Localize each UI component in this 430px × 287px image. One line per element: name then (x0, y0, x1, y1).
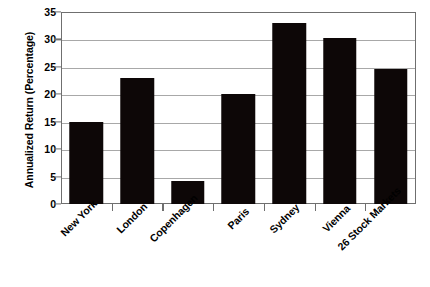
y-tick-label: 0 (16, 198, 56, 210)
bar[interactable] (323, 38, 356, 204)
y-tick-mark (54, 39, 61, 40)
bar-chart: Annualized Return (Percentage) 051015202… (0, 0, 430, 287)
x-tick-mark (264, 204, 265, 211)
y-tick-mark (54, 203, 61, 204)
x-tick-mark (365, 204, 366, 211)
y-tick-mark (54, 149, 61, 150)
y-tick-mark (54, 11, 61, 12)
x-tick-mark (162, 204, 163, 211)
x-tick-label: Sydney (267, 201, 301, 235)
y-tick-label: 30 (16, 33, 56, 45)
bars-group (61, 12, 416, 204)
bar-slot (112, 12, 163, 204)
y-tick-label: 25 (16, 61, 56, 73)
y-tick-mark (54, 176, 61, 177)
y-tick-label: 20 (16, 88, 56, 100)
x-tick-mark (112, 204, 113, 211)
bar-slot (61, 12, 112, 204)
bar-slot (213, 12, 264, 204)
bar-slot (162, 12, 213, 204)
y-tick-mark (54, 94, 61, 95)
bar[interactable] (374, 69, 407, 204)
y-tick-label: 15 (16, 116, 56, 128)
x-tick-label: Paris (225, 205, 251, 231)
bar-slot (315, 12, 366, 204)
y-tick-label: 10 (16, 143, 56, 155)
bar[interactable] (70, 122, 103, 204)
x-tick-label: London (114, 201, 149, 236)
bar[interactable] (222, 94, 255, 204)
x-tick-mark (213, 204, 214, 211)
bar-slot (264, 12, 315, 204)
bar[interactable] (120, 78, 153, 204)
x-tick-mark (315, 204, 316, 211)
bar[interactable] (272, 23, 305, 204)
bar-slot (365, 12, 416, 204)
y-tick-mark (54, 121, 61, 122)
y-tick-mark (54, 66, 61, 67)
x-tick-label: Vienna (320, 202, 352, 234)
y-tick-label: 35 (16, 6, 56, 18)
y-tick-label: 5 (16, 171, 56, 183)
